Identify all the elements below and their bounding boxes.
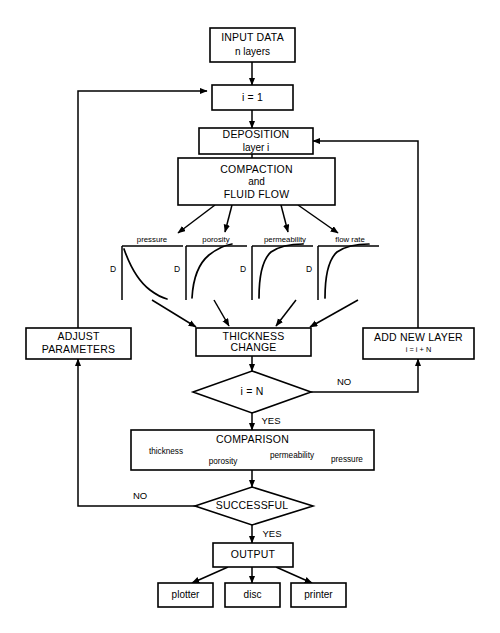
node-init[interactable]: i = 1 [212,85,293,110]
plot-porosity: porosity D [174,235,247,300]
edge-label-decision-yes: YES [261,415,280,426]
plot-pressure-axis-label: D [110,264,116,274]
node-decision-i-equals-n[interactable]: i = N [193,371,311,413]
plot-porosity-title: porosity [202,235,229,244]
edge-compaction-to-flowrate [298,205,338,233]
compaction-line3: FLUID FLOW [224,188,290,200]
edge-decision-no-to-addlayer [311,359,418,392]
node-thickness-change[interactable]: THICKNESS CHANGE [196,328,311,356]
plot-porosity-curve [192,244,232,298]
edge-permeability-to-thickness [276,300,296,326]
compaction-line1: COMPACTION [220,163,292,175]
edge-flowrate-to-thickness [310,300,358,327]
plot-permeability-axis-label: D [240,264,246,274]
deposition-line2: layer i [243,142,270,153]
node-plotter[interactable]: plotter [158,583,213,607]
adjust-parameters-line1: ADJUST [57,330,99,342]
thickness-change-line2: CHANGE [230,341,276,353]
plot-pressure: pressure D [110,235,183,300]
comparison-item-pressure: pressure [331,455,363,464]
plotter-label: plotter [172,589,200,600]
edge-pressure-to-thickness [152,300,196,327]
comparison-item-permeability: permeability [270,451,315,460]
plot-pressure-title: pressure [137,235,167,244]
edge-output-to-printer [276,567,312,583]
plot-flowrate-title: flow rate [335,235,364,244]
node-disc[interactable]: disc [225,583,280,607]
comparison-title: COMPARISON [216,433,289,445]
compaction-line2: and [248,176,265,187]
node-output[interactable]: OUTPUT [213,543,293,567]
edge-label-decision-no: NO [337,376,351,387]
node-printer[interactable]: printer [291,583,346,607]
edge-compaction-to-permeability [281,205,288,232]
comparison-item-porosity: porosity [209,457,239,466]
edge-adjust-to-init [78,91,207,328]
node-comparison[interactable]: COMPARISON thickness porosity permeabili… [131,430,374,470]
plot-permeability-curve [259,244,303,298]
edge-compaction-to-pressure [178,205,215,233]
node-add-new-layer[interactable]: ADD NEW LAYER i = i + N [363,328,474,359]
edge-compaction-to-porosity [225,205,232,232]
plot-porosity-axis-label: D [174,264,180,274]
comparison-item-thickness: thickness [149,447,183,456]
plot-flowrate-curve [325,244,369,298]
edge-label-successful-yes: YES [262,528,281,539]
node-deposition[interactable]: DEPOSITION layer i [199,128,313,154]
add-new-layer-line2: i = i + N [406,345,431,354]
edge-porosity-to-thickness [214,300,229,326]
node-input-data[interactable]: INPUT DATA n layers [210,28,295,62]
flowchart-diagram: INPUT DATA n layers i = 1 DEPOSITION lay… [0,0,500,633]
thickness-change-line1: THICKNESS [223,330,285,342]
flowchart-canvas: INPUT DATA n layers i = 1 DEPOSITION lay… [0,0,500,633]
plot-flow-rate: flow rate D [306,235,379,300]
init-label: i = 1 [242,91,263,103]
input-data-line2: n layers [235,46,270,57]
node-adjust-parameters[interactable]: ADJUST PARAMETERS [26,328,131,359]
decision-successful-label: SUCCESSFUL [216,499,289,511]
decision-i-equals-n-label: i = N [241,385,264,397]
edge-label-successful-no: NO [133,490,147,501]
input-data-line1: INPUT DATA [221,31,284,43]
edge-output-to-plotter [192,567,228,583]
plot-pressure-curve [124,249,167,299]
disc-label: disc [244,589,262,600]
deposition-line1: DEPOSITION [223,128,290,140]
plot-permeability: permeability D [240,235,313,300]
adjust-parameters-line2: PARAMETERS [42,343,116,355]
plot-permeability-title: permeability [264,235,306,244]
node-decision-successful[interactable]: SUCCESSFUL [195,487,313,525]
node-compaction[interactable]: COMPACTION and FLUID FLOW [178,158,335,205]
add-new-layer-line1: ADD NEW LAYER [374,331,463,343]
plot-flowrate-axis-label: D [306,264,312,274]
printer-label: printer [304,589,333,600]
output-label: OUTPUT [231,548,276,560]
